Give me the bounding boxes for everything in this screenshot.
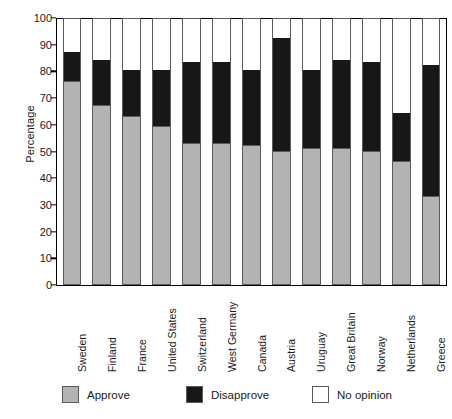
bar-slot[interactable]	[332, 18, 351, 285]
bar-segment-approve[interactable]	[93, 105, 110, 284]
bar-segment-disapprove[interactable]	[393, 113, 410, 161]
y-axis-tick-label: 10	[0, 252, 52, 264]
bar-segment-disapprove[interactable]	[183, 62, 200, 142]
stacked-bar[interactable]	[152, 18, 171, 285]
x-axis-label: Norway	[375, 336, 387, 372]
stacked-bar[interactable]	[302, 18, 321, 285]
y-axis-tick-mark	[51, 258, 56, 259]
stacked-bar[interactable]	[92, 18, 111, 285]
chart-legend: ApproveDisapproveNo opinion	[0, 386, 452, 408]
stacked-bar[interactable]	[392, 18, 411, 285]
bar-segment-disapprove[interactable]	[303, 70, 320, 147]
y-axis-tick-mark	[51, 71, 56, 72]
x-axis-label: West Germany	[226, 302, 238, 372]
y-axis-tick-label: 100	[0, 12, 52, 24]
stacked-bar[interactable]	[332, 18, 351, 285]
bar-segment-approve[interactable]	[303, 148, 320, 284]
y-axis-tick-mark	[51, 17, 56, 18]
legend-item[interactable]: Disapprove	[186, 386, 269, 403]
bar-segment-disapprove[interactable]	[333, 60, 350, 148]
bar-segment-disapprove[interactable]	[363, 62, 380, 150]
bar-segment-approve[interactable]	[273, 151, 290, 285]
legend-item[interactable]: No opinion	[312, 386, 392, 403]
y-axis-tick-label: 50	[0, 146, 52, 158]
stacked-bar[interactable]	[63, 18, 82, 285]
y-axis-tick-mark	[51, 124, 56, 125]
no-opinion-swatch	[312, 386, 329, 403]
bar-segment-approve[interactable]	[333, 148, 350, 284]
stacked-bar[interactable]	[122, 18, 141, 285]
y-axis-tick-label: 20	[0, 226, 52, 238]
x-axis-label: Greece	[435, 337, 447, 372]
bar-slot[interactable]	[422, 18, 441, 285]
stacked-bar[interactable]	[362, 18, 381, 285]
x-axis-label: Austria	[285, 339, 297, 372]
bar-segment-disapprove[interactable]	[423, 65, 440, 196]
stacked-bar[interactable]	[272, 18, 291, 285]
bar-slot[interactable]	[92, 18, 111, 285]
y-axis-tick-label: 90	[0, 39, 52, 51]
bar-segment-approve[interactable]	[64, 81, 81, 284]
bar-segment-disapprove[interactable]	[93, 60, 110, 105]
bar-group	[57, 18, 446, 285]
bar-segment-approve[interactable]	[423, 196, 440, 284]
approve-swatch	[62, 386, 79, 403]
bar-slot[interactable]	[392, 18, 411, 285]
x-axis-label: Netherlands	[405, 315, 417, 372]
y-axis-tick-label: 0	[0, 279, 52, 291]
bar-slot[interactable]	[122, 18, 141, 285]
y-axis-tick-mark	[51, 151, 56, 152]
stacked-bar[interactable]	[212, 18, 231, 285]
x-axis-label: Canada	[256, 335, 268, 372]
y-axis-tick-mark	[51, 284, 56, 285]
x-axis-label: Switzerland	[196, 317, 208, 372]
y-axis-tick-mark	[51, 231, 56, 232]
x-axis-label: United States	[166, 308, 178, 372]
legend-label: Disapprove	[211, 389, 269, 401]
stacked-bar-chart: Percentage 0102030405060708090100 Sweden…	[0, 0, 452, 419]
bar-slot[interactable]	[272, 18, 291, 285]
bar-slot[interactable]	[242, 18, 261, 285]
stacked-bar[interactable]	[182, 18, 201, 285]
y-axis-tick-label: 60	[0, 119, 52, 131]
legend-item[interactable]: Approve	[62, 386, 130, 403]
bar-segment-approve[interactable]	[123, 116, 140, 284]
bar-slot[interactable]	[302, 18, 321, 285]
y-axis-tick-label: 40	[0, 172, 52, 184]
y-axis-tick-mark	[51, 44, 56, 45]
bar-segment-disapprove[interactable]	[64, 52, 81, 81]
bar-slot[interactable]	[182, 18, 201, 285]
y-axis-tick-mark	[51, 178, 56, 179]
x-axis-label: Finland	[106, 337, 118, 372]
bar-slot[interactable]	[362, 18, 381, 285]
bar-segment-disapprove[interactable]	[123, 70, 140, 115]
x-axis-label: France	[136, 339, 148, 372]
y-axis-tick-label: 70	[0, 92, 52, 104]
x-axis-label: Sweden	[76, 334, 88, 372]
x-axis-label: Great Britain	[345, 312, 357, 372]
bar-segment-approve[interactable]	[393, 161, 410, 284]
stacked-bar[interactable]	[422, 18, 441, 285]
bar-slot[interactable]	[152, 18, 171, 285]
legend-label: Approve	[87, 389, 130, 401]
y-axis-tick-label: 80	[0, 65, 52, 77]
bar-segment-disapprove[interactable]	[153, 70, 170, 126]
bar-segment-disapprove[interactable]	[243, 70, 260, 145]
stacked-bar[interactable]	[242, 18, 261, 285]
bar-segment-approve[interactable]	[363, 151, 380, 285]
legend-label: No opinion	[337, 389, 392, 401]
y-axis-tick-mark	[51, 97, 56, 98]
bar-segment-approve[interactable]	[153, 126, 170, 284]
bar-segment-approve[interactable]	[183, 143, 200, 285]
bar-segment-disapprove[interactable]	[213, 62, 230, 142]
bar-slot[interactable]	[63, 18, 82, 285]
y-axis-tick-label: 30	[0, 199, 52, 211]
bar-segment-approve[interactable]	[213, 143, 230, 285]
x-axis-label: Uruguay	[315, 332, 327, 372]
bar-slot[interactable]	[212, 18, 231, 285]
bar-segment-approve[interactable]	[243, 145, 260, 284]
y-axis-tick-mark	[51, 204, 56, 205]
disapprove-swatch	[186, 386, 203, 403]
bar-segment-disapprove[interactable]	[273, 38, 290, 150]
